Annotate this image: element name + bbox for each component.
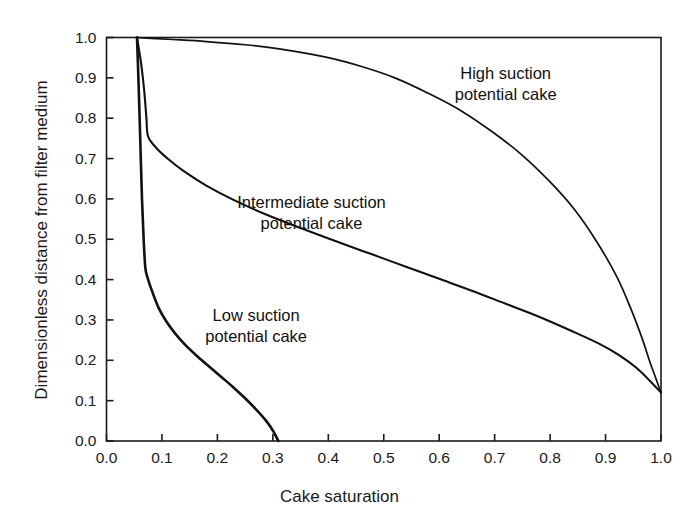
- x-tick-label: 0.1: [139, 449, 185, 467]
- x-tick-label: 0.7: [472, 449, 518, 467]
- annotation-low-suction: Low suction potential cake: [205, 305, 307, 347]
- x-tick-label: 0.4: [305, 449, 351, 467]
- y-tick-label: 0.8: [51, 109, 97, 127]
- y-axis-title: Dimensionless distance from filter mediu…: [32, 20, 52, 460]
- x-tick-label: 0.6: [416, 449, 462, 467]
- y-tick-label: 0.7: [51, 150, 97, 168]
- y-tick-label: 0.0: [51, 432, 97, 450]
- x-tick-label: 1.0: [638, 449, 679, 467]
- y-tick-label: 0.6: [51, 190, 97, 208]
- x-tick-label: 0.8: [527, 449, 573, 467]
- x-tick-label: 0.3: [250, 449, 296, 467]
- y-tick-label: 0.3: [51, 311, 97, 329]
- chart-figure: [0, 0, 679, 518]
- x-tick-label: 0.0: [84, 449, 130, 467]
- annotation-high-suction: High suction potential cake: [455, 63, 557, 105]
- y-tick-label: 0.5: [51, 230, 97, 248]
- y-tick-label: 1.0: [51, 29, 97, 47]
- x-tick-label: 0.2: [194, 449, 240, 467]
- y-tick-label: 0.1: [51, 392, 97, 410]
- x-tick-label: 0.9: [583, 449, 629, 467]
- y-tick-label: 0.9: [51, 69, 97, 87]
- y-tick-label: 0.4: [51, 271, 97, 289]
- x-axis-title: Cake saturation: [0, 487, 679, 507]
- y-tick-label: 0.2: [51, 351, 97, 369]
- x-tick-label: 0.5: [361, 449, 407, 467]
- annotation-inter-suction: Intermediate suction potential cake: [237, 192, 386, 234]
